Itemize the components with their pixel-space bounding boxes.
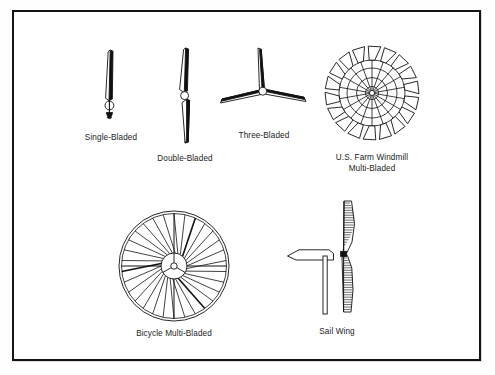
caption-double-bladed: Double-Bladed <box>134 153 236 164</box>
figure-three-bladed: Three-Bladed <box>214 40 314 132</box>
caption-sail-wing: Sail Wing <box>287 326 387 337</box>
figure-double-bladed: Double-Bladed <box>162 37 208 155</box>
caption-three-bladed: Three-Bladed <box>214 130 314 141</box>
caption-single-bladed: Single-Bladed <box>60 132 162 143</box>
caption-line-1: U.S. Farm Windmill <box>336 153 408 162</box>
figure-single-bladed: Single-Bladed <box>86 40 136 136</box>
figure-us-farm-windmill: U.S. Farm WindmillMulti-Bladed <box>317 38 427 148</box>
sail-wing-rotor-icon <box>285 198 389 323</box>
three-bladed-rotor-icon <box>214 40 314 132</box>
illustration-page: Single-Bladed Double-Bladed <box>0 0 495 375</box>
bicycle-multiblade-rotor-icon <box>115 207 233 325</box>
diagram-frame: Single-Bladed Double-Bladed <box>12 10 481 361</box>
caption-line-2: Multi-Bladed <box>349 164 396 173</box>
caption-bicycle-multi-bladed: Bicycle Multi-Bladed <box>104 328 244 339</box>
figure-bicycle-multi-bladed: Bicycle Multi-Bladed <box>115 207 233 325</box>
farm-windmill-rotor-icon <box>317 38 427 148</box>
caption-us-farm-windmill: U.S. Farm WindmillMulti-Bladed <box>312 152 432 174</box>
double-bladed-rotor-icon <box>162 37 208 155</box>
single-bladed-rotor-icon <box>86 40 136 136</box>
figure-sail-wing: Sail Wing <box>285 198 389 323</box>
